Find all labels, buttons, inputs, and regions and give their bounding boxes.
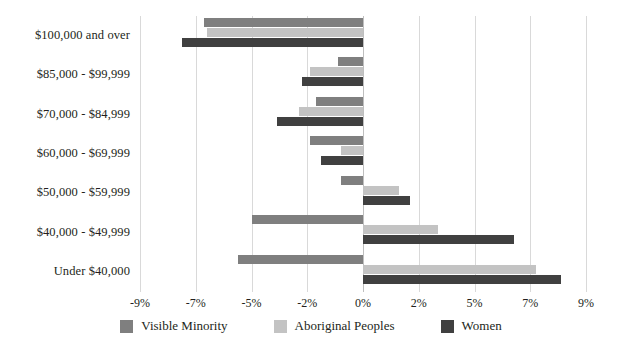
bar-group	[140, 16, 586, 55]
bar	[363, 186, 399, 195]
x-tick-label: -2%	[297, 296, 317, 311]
bar	[363, 225, 438, 234]
bar	[316, 97, 363, 106]
plot-area	[140, 16, 586, 292]
category-label: $50,000 - $59,999	[37, 185, 130, 200]
x-tick-label: 7%	[522, 296, 538, 311]
legend-label: Aboriginal Peoples	[295, 318, 395, 334]
bar-group	[140, 213, 586, 252]
category-label: Under $40,000	[54, 264, 130, 279]
x-tick-label: 0%	[355, 296, 371, 311]
bar-group	[140, 134, 586, 173]
bar	[207, 28, 363, 37]
legend-swatch-icon	[441, 320, 454, 333]
legend-item[interactable]: Visible Minority	[120, 318, 227, 334]
x-tick-label: -7%	[186, 296, 206, 311]
bar	[321, 156, 363, 165]
bar-group	[140, 253, 586, 292]
legend-item[interactable]: Women	[441, 318, 502, 334]
x-tick-label: -5%	[242, 296, 262, 311]
x-tick-label: 5%	[467, 296, 483, 311]
bar	[299, 107, 363, 116]
category-label: $100,000 and over	[35, 28, 130, 43]
bar	[302, 77, 363, 86]
bar	[238, 255, 363, 264]
bar	[252, 215, 364, 224]
bar-group	[140, 55, 586, 94]
bar	[363, 275, 561, 284]
bar	[363, 265, 536, 274]
x-tick-label: 2%	[411, 296, 427, 311]
bar-group	[140, 174, 586, 213]
diverging-bar-chart: $100,000 and over$85,000 - $99,999$70,00…	[0, 0, 622, 350]
bar	[204, 18, 363, 27]
bar	[363, 235, 514, 244]
legend-label: Visible Minority	[141, 318, 227, 334]
bar	[341, 146, 363, 155]
category-label: $70,000 - $84,999	[37, 107, 130, 122]
bar-group	[140, 95, 586, 134]
legend-item[interactable]: Aboriginal Peoples	[274, 318, 395, 334]
bar	[341, 176, 363, 185]
category-label: $40,000 - $49,999	[37, 225, 130, 240]
legend-swatch-icon	[274, 320, 287, 333]
legend-swatch-icon	[120, 320, 133, 333]
bar	[310, 67, 363, 76]
legend-label: Women	[462, 318, 502, 334]
chart-legend: Visible MinorityAboriginal PeoplesWomen	[0, 318, 622, 334]
x-tick-label: 9%	[578, 296, 594, 311]
bar	[310, 136, 363, 145]
bar	[182, 38, 363, 47]
bar	[277, 117, 363, 126]
bar	[338, 57, 363, 66]
x-tick-label: -9%	[130, 296, 150, 311]
category-label: $60,000 - $69,999	[37, 146, 130, 161]
bar	[363, 196, 410, 205]
gridline	[586, 16, 587, 292]
category-label: $85,000 - $99,999	[37, 67, 130, 82]
